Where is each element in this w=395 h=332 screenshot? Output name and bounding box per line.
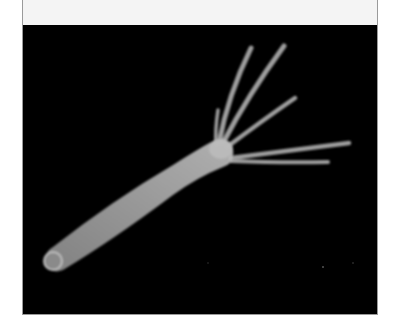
tentacle-4 [231,143,349,158]
hydra-illustration [23,25,377,314]
hypostome [209,139,233,159]
tentacle-5 [231,161,328,162]
image-frame [22,0,378,315]
tentacles [216,46,349,162]
tentacle-3 [227,98,295,147]
basal-disc [44,252,62,270]
hydra-photo [23,25,377,314]
top-blank-band [23,0,377,26]
tentacle-1 [219,48,251,143]
body-column [44,139,233,271]
